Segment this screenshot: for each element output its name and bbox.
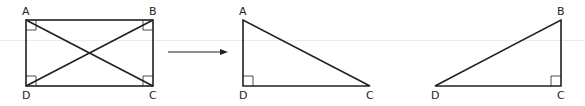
triangle-dcb (435, 20, 561, 86)
label-tri1-d: D (239, 90, 247, 101)
label-tri1-a: A (239, 6, 247, 17)
label-rect-d: D (22, 90, 30, 101)
right-angle-mark-triangle-adc-d (243, 76, 253, 86)
label-rect-a: A (22, 6, 30, 17)
right-angle-mark-triangle-dcb-c (551, 76, 561, 86)
label-tri1-c: C (366, 90, 374, 101)
label-tri2-d: D (431, 90, 439, 101)
geometry-diagram (0, 0, 585, 106)
label-tri2-c: C (557, 90, 565, 101)
label-tri2-b: B (557, 6, 565, 17)
label-rect-c: C (149, 90, 157, 101)
triangle-adc (243, 20, 370, 86)
arrow-icon (168, 49, 228, 55)
label-rect-b: B (149, 6, 157, 17)
